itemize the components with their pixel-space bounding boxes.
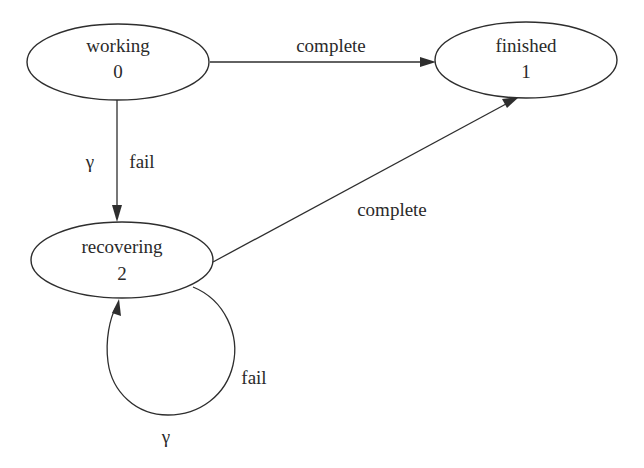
edge-line bbox=[107, 287, 235, 415]
state-number: 1 bbox=[521, 61, 531, 82]
edge-working-to-recovering: fail γ bbox=[85, 100, 155, 222]
state-number: 2 bbox=[117, 263, 127, 284]
arrowhead-icon bbox=[502, 97, 519, 108]
state-recovering: recovering 2 bbox=[31, 222, 213, 298]
edge-label-complete: complete bbox=[357, 199, 427, 220]
edge-rate-gamma: γ bbox=[85, 151, 94, 172]
edge-working-to-finished: complete bbox=[210, 35, 436, 67]
edge-rate-gamma: γ bbox=[161, 426, 170, 447]
state-name: working bbox=[86, 35, 150, 56]
state-working: working 0 bbox=[27, 24, 209, 100]
state-ellipse bbox=[31, 222, 213, 298]
arrowhead-icon bbox=[112, 205, 122, 222]
state-name: finished bbox=[495, 35, 557, 56]
state-name: recovering bbox=[81, 236, 163, 257]
edge-recovering-to-finished: complete bbox=[213, 97, 519, 262]
edge-label-complete: complete bbox=[296, 35, 366, 56]
state-finished: finished 1 bbox=[435, 22, 617, 98]
state-diagram: complete fail γ complete fail γ working … bbox=[0, 0, 644, 468]
arrowhead-icon bbox=[420, 57, 436, 67]
edge-label-fail: fail bbox=[129, 151, 154, 172]
state-ellipse bbox=[435, 22, 617, 98]
edge-recovering-self-loop: fail γ bbox=[107, 287, 267, 447]
edge-line bbox=[213, 104, 506, 262]
state-number: 0 bbox=[113, 61, 123, 82]
edge-label-fail: fail bbox=[241, 367, 266, 388]
